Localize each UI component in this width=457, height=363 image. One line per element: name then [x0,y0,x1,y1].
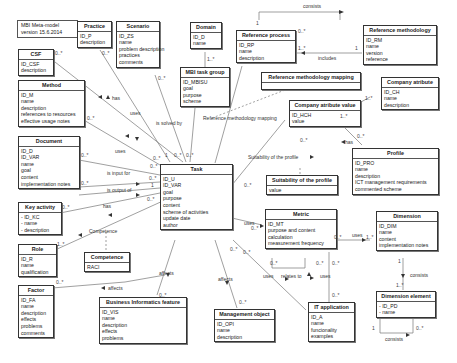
label-suitability: Suitability of the profile [248,154,298,160]
class-attributes: ID_CSFdescription [19,60,53,75]
class-title: Method [19,81,84,91]
class-attributes: ID_CHname description [382,88,438,110]
class-it-application[interactable]: IT application ID_Aname funcionalityexam… [308,302,355,342]
label-is-input-for: is input for [107,170,130,176]
mult: 0..* [55,50,63,56]
class-company-atribute-value[interactable]: Company atribute value ID_HCHvalue [289,100,361,127]
note-line-1: MBI Meta-model [21,22,74,29]
class-title: Company atribute value [290,101,360,111]
class-attributes: ID_Pdescription [78,32,111,47]
class-scenario[interactable]: Scenario ID_ZSname problem descriptionpr… [116,21,160,68]
mult: 0..* [102,50,110,56]
class-attributes: ID_PROname descriptionICT management req… [353,159,438,194]
class-attributes: ID_MBISUgoal purposescheme [181,78,229,106]
class-dimension[interactable]: Dimension ID_DIMname contentimplementati… [376,211,438,251]
label-affects-bif: affects [159,270,174,276]
class-factor[interactable]: Factor ID_FAname descriptioneffects prob… [18,285,54,338]
mult: 1..* [57,241,65,247]
mult: 0..* [81,180,89,186]
class-task[interactable]: Task ID_UID_VAR goalpurpose contentschem… [160,164,233,230]
class-mbi-task-group[interactable]: MBI task group ID_MBISUgoal purposeschem… [180,67,230,107]
mult: 0..* [158,75,166,81]
mult: 1..* [366,234,374,240]
label-consists-rp: consists [303,3,321,9]
mult: 1 [256,20,259,26]
label-consists-dim: consists [410,272,428,278]
class-attributes: ID_ZSname problem descriptionpractices c… [117,32,159,67]
mult: 0..* [300,137,308,143]
class-role[interactable]: Role ID_Rname qualification [18,244,57,277]
mult: 0..* [56,279,64,285]
class-dimension-element[interactable]: Dimension element - ID_PD- name [376,291,436,318]
mult: 0..* [153,155,161,161]
class-document[interactable]: Document ID_DID_VAR namegoal contentimpl… [18,136,80,189]
class-reference-methodology[interactable]: Reference methodology ID_RMname versionr… [363,25,437,65]
mult: 0..* [62,204,70,210]
class-title: MBI task group [181,68,229,78]
class-reference-methodology-mapping[interactable]: Reference methodology mapping [261,72,361,90]
class-title: Key activity [19,203,61,213]
mult: 0..* [270,260,278,266]
label-uses-it2: uses [320,273,331,279]
mult: 0..* [81,152,89,158]
mult: 0..* [159,292,167,298]
class-company-atribute[interactable]: Company atribute ID_CHname description [381,77,439,110]
mult: 0..* [147,196,155,202]
class-title: Business Informatics feature [100,298,186,308]
label-has-key: has [103,203,111,209]
label-is-solved-by: is solved by [156,120,182,126]
mult: 0..* [150,163,158,169]
class-practice[interactable]: Practice ID_Pdescription [77,21,112,48]
class-title: Metric [266,210,336,220]
class-attributes: - ID_KC- name - description [19,213,61,235]
class-attributes: value [267,186,337,195]
class-title: Scenario [117,22,159,32]
class-attributes: ID_OPIname description [215,320,274,342]
class-title: Role [19,245,56,255]
label-ref-meth-mapping: Reference methodology mapping [203,115,277,121]
label-affects-factor: affects [108,285,123,291]
class-title: Document [19,137,79,147]
class-attributes: - ID_PD- name [377,302,435,317]
class-key-activity[interactable]: Key activity - ID_KC- name - description [18,202,62,235]
class-reference-process[interactable]: Reference process ID_RPname description [236,30,296,63]
class-attributes: ID_DID_VAR namegoal contentimplementatio… [19,147,79,189]
class-attributes: ID_RMname versionreference [364,36,436,64]
mult: 1 [372,325,375,331]
class-title: Practice [78,22,111,32]
label-consists-de: consists [385,336,403,342]
mult: 1 [355,45,358,51]
class-method[interactable]: Method ID_Mname descriptionreferences to… [18,80,85,127]
class-title: Dimension element [377,292,435,302]
mult: 1 [165,152,168,158]
class-attributes: ID_MTpurpose and content calculationmeas… [266,220,336,248]
mult: 0..* [174,152,182,158]
class-title: Domain [191,23,221,33]
class-csf[interactable]: CSF ID_CSFdescription [18,49,54,76]
class-title: Task [161,165,232,175]
mult: 1..* [298,45,306,51]
mult: 1..* [396,282,404,288]
class-title: Management object [215,310,274,320]
mult: 1..* [365,95,373,101]
mult: 0..* [251,225,259,231]
class-management-object[interactable]: Management object ID_OPIname description [214,309,275,342]
class-attributes: ID_Dname [191,33,221,48]
class-profile[interactable]: Profile ID_PROname descriptionICT manage… [352,148,439,195]
class-attributes: ID_UID_VAR goalpurpose contentscheme of … [161,175,232,230]
mult: 1..* [207,56,215,62]
class-title: CSF [19,50,53,60]
mult: 1 [151,182,154,188]
class-business-informatics-feature[interactable]: Business Informatics feature ID_VISname … [99,297,187,344]
class-title: Factor [19,286,53,296]
model-version-note: MBI Meta-model version 15.6.2014 [17,20,78,38]
class-domain[interactable]: Domain ID_Dname [190,22,222,49]
mult: 0..* [332,260,340,266]
class-attributes: ID_VISname descriptioneffects problems [100,308,186,343]
class-metric[interactable]: Metric ID_MTpurpose and content calculat… [265,209,337,249]
class-title: Profile [353,149,438,159]
class-competence[interactable]: Competence RACI [84,252,130,272]
class-title: IT application [309,303,354,313]
class-suitability-of-the-profile[interactable]: Suitability of the profile value [266,175,338,195]
class-attributes: ID_Mname descriptionreferences to resour… [19,91,84,126]
